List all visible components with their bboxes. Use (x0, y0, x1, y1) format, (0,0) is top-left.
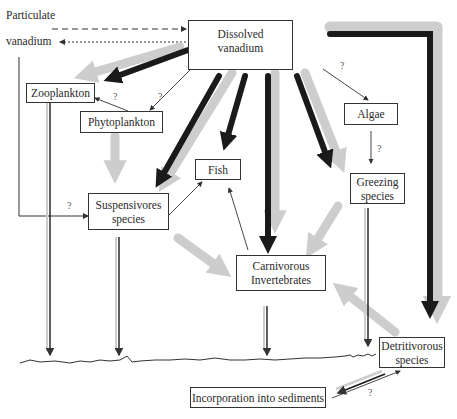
sediments-to-detritivorous-line (332, 371, 400, 398)
particulate-to-suspensivores-line (19, 57, 88, 216)
node-detritivorous-species: Detritivorous species (379, 337, 445, 368)
dissolved-to-algae-line (323, 69, 368, 100)
dissolved-to-phytoplankton-line (150, 70, 190, 110)
detr-to-sediments-grey (336, 371, 382, 389)
grey-arrow-suspensivores-to-carnivorous (178, 238, 222, 270)
suspensivores-to-fish-line (169, 182, 202, 215)
uncertain-mark-particulate-suspensivores: ? (67, 200, 71, 211)
uncertain-mark-sediments-detritivorous: ? (368, 387, 372, 398)
node-phytoplankton: Phytoplankton (80, 111, 163, 133)
node-zooplankton: Zooplankton (26, 83, 95, 103)
grey-arrow-to-detritivorous (330, 27, 437, 310)
grey-arrow-greezing-to-carnivorous (312, 206, 338, 248)
detritivorous-line2: species (395, 353, 428, 367)
greezing-line2: species (361, 189, 394, 203)
uncertain-mark-algae-greezing: ? (377, 143, 381, 154)
node-suspensivores-species: Suspensivores species (88, 193, 169, 230)
vanadium-label: vanadium (6, 35, 51, 47)
black-arrow-to-detritivorous (330, 34, 430, 310)
node-algae: Algae (344, 103, 398, 125)
uncertain-mark-dissolved-phyto: ? (158, 91, 162, 102)
node-incorporation-sediments: Incorporation into sediments (190, 387, 326, 408)
node-greezing-species: Greezing species (350, 173, 405, 204)
sediment-surface-line (20, 354, 376, 363)
detritivorous-line1: Detritivorous (381, 339, 442, 353)
uncertain-mark-zoo-phyto: ? (113, 91, 117, 102)
node-fish: Fish (195, 159, 241, 180)
particulate-label: Particulate (6, 9, 55, 21)
suspensivores-line2: species (112, 212, 145, 226)
carnivorous-to-fish-line (229, 188, 248, 250)
carnivorous-line2: Invertebrates (251, 273, 311, 287)
dissolved-line1: Dissolved (218, 27, 264, 41)
node-dissolved-vanadium: Dissolved vanadium (188, 20, 293, 70)
phytoplankton-to-zooplankton-line (95, 98, 128, 111)
dissolved-line2: vanadium (218, 41, 263, 55)
uncertain-mark-dissolved-algae: ? (340, 60, 344, 71)
suspensivores-line1: Suspensivores (96, 198, 162, 212)
node-carnivorous-invertebrates: Carnivorous Invertebrates (236, 255, 326, 291)
carnivorous-line1: Carnivorous (253, 259, 310, 273)
greezing-line1: Greezing (356, 175, 398, 189)
detr-to-sediments-black (338, 374, 385, 393)
